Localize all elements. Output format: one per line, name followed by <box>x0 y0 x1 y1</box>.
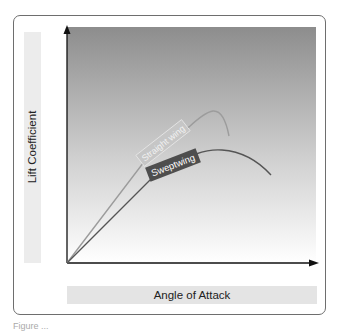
x-axis-label: Angle of Attack <box>67 286 317 304</box>
plot-background <box>67 27 316 263</box>
figure-caption: Figure ... <box>13 321 49 331</box>
